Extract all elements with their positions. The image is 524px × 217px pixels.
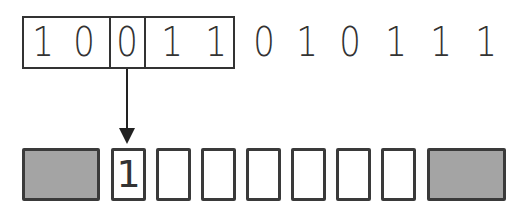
- bit-digit: 1: [428, 16, 454, 68]
- output-slot: [291, 148, 326, 201]
- window-divider-left: [109, 16, 111, 69]
- bit-digit: 0: [337, 16, 363, 68]
- output-slot: [336, 148, 371, 201]
- bit-digit: 1: [294, 16, 320, 68]
- bit-digit: 1: [30, 16, 56, 68]
- bit-digit: 0: [251, 16, 277, 68]
- arrow-down-icon: [119, 128, 135, 144]
- bit-digit-selected: 0: [114, 16, 140, 68]
- output-slot: [381, 148, 416, 201]
- bit-digit: 1: [159, 16, 185, 68]
- output-slot: [246, 148, 281, 201]
- output-slot: [156, 148, 191, 201]
- padding-block-left: [22, 148, 100, 201]
- window-divider-right: [144, 16, 146, 69]
- bit-digit: 0: [71, 16, 97, 68]
- output-slot: [201, 148, 236, 201]
- arrow-line: [126, 69, 128, 133]
- output-slot: 1: [111, 148, 146, 201]
- bit-digit: 1: [203, 16, 229, 68]
- padding-block-right: [427, 148, 506, 201]
- bit-digit: 1: [383, 16, 409, 68]
- bit-digit: 1: [473, 16, 499, 68]
